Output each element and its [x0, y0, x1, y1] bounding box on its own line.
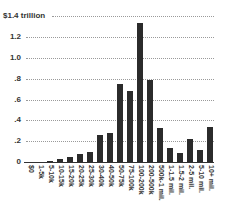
x-tick-label: 15-20k: [67, 165, 75, 187]
gridline: [52, 16, 214, 17]
x-tick-label: 200-500k: [147, 165, 155, 195]
x-tick-label: 2-5 mil.: [187, 165, 195, 189]
y-tick-label: 1.0: [10, 54, 21, 62]
x-tick-label: 25-30k: [87, 165, 95, 187]
bar: [157, 128, 163, 162]
x-tick-label: 75-100k: [127, 165, 135, 191]
y-tick-label: $1.4 trillion: [3, 12, 45, 20]
x-tick-label: 10-15k: [57, 165, 65, 187]
bar: [87, 152, 93, 162]
x-tick-label: 1-1.5 mil.: [167, 165, 175, 195]
x-tick-label: 50-75k: [117, 165, 125, 187]
x-tick-label: 5-10 mil.: [197, 165, 205, 193]
x-tick-label: $0: [27, 165, 35, 173]
y-tick-label: .8: [14, 75, 21, 83]
y-tick-label: .2: [14, 137, 21, 145]
bar: [207, 127, 213, 162]
x-tick-label: 500k-1 mil.: [157, 165, 165, 201]
bar: [137, 23, 143, 162]
y-tick-label: .6: [14, 96, 21, 104]
x-tick-label: 30-40k: [97, 165, 105, 187]
bar: [77, 154, 83, 162]
bar: [107, 133, 113, 162]
x-tick-label: 5-10k: [47, 165, 55, 183]
y-tick-label: 1.2: [10, 33, 21, 41]
bar: [117, 84, 123, 162]
bar: [147, 80, 153, 162]
bar: [187, 139, 193, 162]
gridline: [26, 37, 214, 38]
bar: [197, 150, 203, 162]
gridline: [26, 79, 214, 80]
bar: [127, 91, 133, 162]
x-tick-label: 20-25k: [77, 165, 85, 187]
x-tick-label: 40-50k: [107, 165, 115, 187]
x-tick-label: 1.5-2 mil.: [177, 165, 185, 195]
y-tick-label: 0: [17, 158, 21, 166]
x-tick-label: 1-5k: [37, 165, 45, 179]
gridline: [26, 58, 214, 59]
bar: [97, 135, 103, 162]
income-bar-chart: 0.2.4.6.81.01.2$1.4 trillion $01-5k5-10k…: [0, 0, 226, 208]
x-axis-baseline: [24, 162, 214, 163]
bar: [167, 148, 173, 162]
x-tick-label: 10+ mil.: [207, 165, 215, 191]
bar: [177, 153, 183, 162]
x-tick-label: 100-200k: [137, 165, 145, 195]
y-tick-label: .4: [14, 116, 21, 124]
